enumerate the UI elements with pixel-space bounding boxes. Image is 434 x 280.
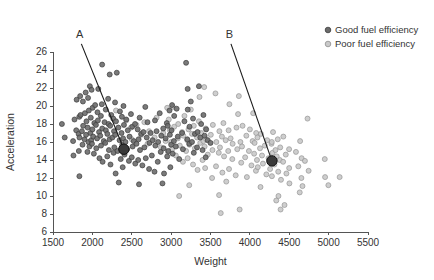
series-points-good-fuel-efficiency [59, 60, 213, 187]
scatter-point [170, 151, 175, 156]
scatter-point [185, 107, 190, 112]
scatter-point [281, 134, 286, 139]
scatter-point [62, 135, 67, 140]
scatter-point [275, 137, 280, 142]
scatter-point [228, 136, 233, 141]
scatter-point [273, 148, 278, 153]
scatter-point [237, 207, 242, 212]
scatter-point [121, 104, 126, 109]
scatter-point [214, 140, 219, 145]
y-tick-label: 18 [36, 118, 48, 129]
y-tick-label: 16 [36, 136, 48, 147]
scatter-point [244, 133, 249, 138]
scatter-point [108, 162, 113, 167]
scatter-point [221, 121, 226, 126]
scatter-point [124, 117, 129, 122]
highlighted-data-point[interactable] [267, 156, 277, 166]
scatter-point [227, 167, 232, 172]
scatter-point [114, 119, 119, 124]
scatter-point [249, 163, 254, 168]
scatter-point [100, 62, 105, 67]
scatter-point [133, 122, 138, 127]
scatter-point [149, 153, 154, 158]
x-tick-label: 4000 [239, 237, 262, 248]
legend-marker [325, 27, 331, 33]
scatter-point [142, 145, 147, 150]
scatter-point [210, 148, 215, 153]
y-tick-label: 14 [36, 154, 48, 165]
scatter-point [281, 159, 286, 164]
scatter-point [210, 176, 215, 181]
scatter-point [94, 146, 99, 151]
scatter-point [196, 84, 201, 89]
scatter-point [143, 104, 148, 109]
scatter-point [226, 149, 231, 154]
highlighted-data-point[interactable] [119, 144, 129, 154]
scatter-point [244, 175, 249, 180]
scatter-point [154, 129, 159, 134]
scatter-point [108, 123, 113, 128]
scatter-point [98, 113, 103, 118]
scatter-point [177, 157, 182, 162]
scatter-point [278, 145, 283, 150]
scatter-point [79, 129, 84, 134]
scatter-point [282, 203, 287, 208]
scatter-point [260, 153, 265, 158]
scatter-point [337, 175, 342, 180]
scatter-point [217, 145, 222, 150]
y-tick-label: 8 [41, 208, 47, 219]
scatter-point [217, 193, 222, 198]
legend-label: Poor fuel efficiency [335, 38, 415, 49]
scatter-point [113, 100, 118, 105]
scatter-point [187, 124, 192, 129]
scatter-point [224, 179, 229, 184]
scatter-point [322, 157, 327, 162]
y-tick-label: 26 [36, 46, 48, 57]
scatter-point [189, 140, 194, 145]
scatter-point [236, 94, 241, 99]
scatter-point [83, 90, 88, 95]
scatter-point [160, 181, 165, 186]
scatter-point [271, 130, 276, 135]
scatter-point [150, 138, 155, 143]
scatter-point [296, 164, 301, 169]
scatter-point [136, 158, 141, 163]
scatter-point [184, 60, 189, 65]
y-tick-label: 12 [36, 172, 48, 183]
scatter-point [152, 169, 157, 174]
scatter-point [188, 99, 193, 104]
scatter-point [135, 127, 140, 132]
scatter-point [143, 156, 148, 161]
scatter-point [145, 120, 150, 125]
x-axis-title: Weight [194, 255, 227, 267]
scatter-point [254, 158, 259, 163]
x-tick-label: 2500 [121, 237, 144, 248]
scatter-point [252, 151, 257, 156]
scatter-point [297, 190, 302, 195]
scatter-point [230, 157, 235, 162]
legend-marker [325, 41, 331, 47]
scatter-point [300, 184, 305, 189]
scatter-point [213, 91, 218, 96]
scatter-point [137, 182, 142, 187]
scatter-point [187, 183, 192, 188]
scatter-point [230, 141, 235, 146]
y-tick-label: 24 [36, 64, 48, 75]
scatter-point [268, 167, 273, 172]
scatter-point [269, 174, 274, 179]
scatter-point [255, 165, 260, 170]
scatter-point [214, 164, 219, 169]
scatter-point [202, 133, 207, 138]
y-axis-title: Acceleration [4, 113, 16, 171]
scatter-point [203, 166, 208, 171]
scatter-point [284, 171, 289, 176]
scatter-point [161, 146, 166, 151]
scatter-point [117, 109, 122, 114]
y-tick-label: 10 [36, 190, 48, 201]
scatter-point [197, 95, 202, 100]
scatter-point [227, 102, 232, 107]
scatter-point [129, 155, 134, 160]
scatter-point [98, 133, 103, 138]
scatter-point [191, 162, 196, 167]
scatter-point [260, 161, 265, 166]
